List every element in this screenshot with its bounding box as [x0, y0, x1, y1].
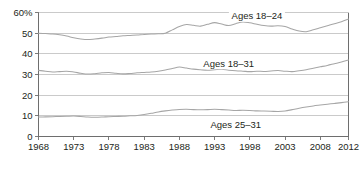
y-tick-label-20: 20 — [22, 90, 33, 101]
x-axis-ticks: 1968197319781983198819931998200320082012 — [28, 137, 359, 153]
chart-canvas: 0102030405060%19681973197819831988199319… — [0, 0, 361, 170]
x-tick-label-2003: 2003 — [275, 141, 296, 152]
series-line-ages-18-31 — [39, 60, 349, 74]
y-tick-label-60: 60% — [13, 7, 33, 18]
x-tick-label-1973: 1973 — [63, 141, 84, 152]
series-group — [39, 19, 349, 117]
x-tick-label-1993: 1993 — [204, 141, 225, 152]
series-label-ages-25-31: Ages 25–31 — [210, 119, 261, 130]
x-tick-label-1968: 1968 — [28, 141, 49, 152]
y-tick-label-40: 40 — [22, 48, 33, 59]
y-tick-label-30: 30 — [22, 69, 33, 80]
series-line-ages-25-31 — [39, 102, 349, 118]
y-tick-label-10: 10 — [22, 110, 33, 121]
y-axis-ticks: 0102030405060% — [13, 7, 38, 142]
x-tick-label-1988: 1988 — [169, 141, 190, 152]
x-tick-label-1983: 1983 — [134, 141, 155, 152]
series-line-ages-18-24 — [39, 19, 349, 39]
x-tick-label-1998: 1998 — [239, 141, 260, 152]
series-label-ages-18-24: Ages 18–24 — [232, 10, 283, 21]
x-tick-label-2008: 2008 — [310, 141, 331, 152]
x-tick-label-2012: 2012 — [338, 141, 359, 152]
line-chart: 0102030405060%19681973197819831988199319… — [0, 0, 361, 170]
x-tick-label-1978: 1978 — [98, 141, 119, 152]
series-label-ages-18-31: Ages 18–31 — [203, 58, 254, 69]
y-tick-label-50: 50 — [22, 28, 33, 39]
